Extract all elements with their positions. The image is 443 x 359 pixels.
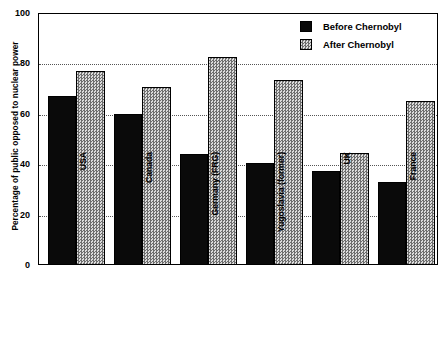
bar-before-usa xyxy=(48,96,76,265)
legend-swatch-before-icon xyxy=(300,21,312,32)
y-tick-label-40: 40 xyxy=(0,160,30,169)
bar-before-canada xyxy=(114,114,142,265)
y-tick-label-0: 0 xyxy=(0,261,30,270)
legend-label-before: Before Chernobyl xyxy=(323,22,402,32)
x-label-uk: UK xyxy=(342,152,352,272)
x-label-germany: Germany (FRG) xyxy=(210,152,220,272)
bar-before-germany xyxy=(180,154,208,265)
x-label-france: France xyxy=(408,152,418,272)
y-tick-label-20: 20 xyxy=(0,211,30,220)
y-tick-label-80: 80 xyxy=(0,59,30,68)
chart-legend: Before Chernobyl After Chernobyl xyxy=(300,19,440,55)
legend-swatch-after-icon xyxy=(300,39,312,50)
legend-item-before-chernobyl: Before Chernobyl xyxy=(300,19,440,34)
bar-chart: Percentage of public opposed to nuclear … xyxy=(0,0,443,359)
y-tick-label-60: 60 xyxy=(0,110,30,119)
x-label-canada: Canada xyxy=(144,152,154,272)
x-label-usa: USA xyxy=(78,152,88,272)
y-tick-label-100: 100 xyxy=(0,9,30,18)
legend-item-after-chernobyl: After Chernobyl xyxy=(300,37,440,52)
x-label-yugoslavia: Yugoslavia (former) xyxy=(276,152,286,272)
y-axis-title: Percentage of public opposed to nuclear … xyxy=(11,16,21,256)
bar-before-uk xyxy=(312,171,340,266)
bar-before-yugoslavia xyxy=(246,163,274,265)
legend-label-after: After Chernobyl xyxy=(323,40,394,50)
bar-before-france xyxy=(378,182,406,265)
